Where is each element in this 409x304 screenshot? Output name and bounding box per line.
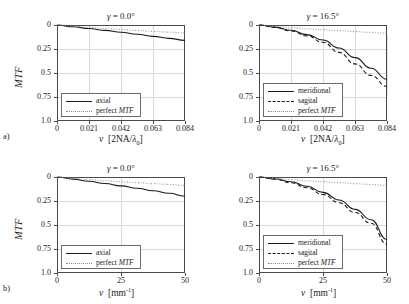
legend-swatch-dotted — [268, 263, 294, 264]
legend-item: meridional — [264, 238, 342, 248]
legend-label: meridional — [298, 238, 331, 248]
legend-swatch-dashed — [268, 253, 294, 254]
curve-meridional — [259, 177, 387, 240]
mtf-figure: 00.0210.0420.0630.0841.00.750.50.250MTFγ… — [0, 0, 409, 304]
legend-item: perfect MTF — [264, 258, 342, 268]
legend-label: perfect MTF — [298, 258, 336, 268]
curve-layer-b-right — [0, 0, 409, 304]
legend-b-right: meridionalsagitalperfect MTF — [263, 235, 343, 269]
legend-item: sagital — [264, 248, 342, 258]
legend-label: sagital — [298, 248, 318, 258]
legend-swatch-solid — [268, 243, 294, 244]
curve-perfect-mtf — [259, 177, 387, 185]
